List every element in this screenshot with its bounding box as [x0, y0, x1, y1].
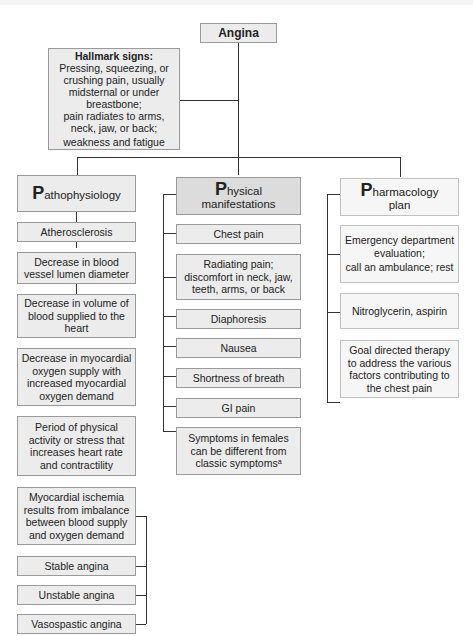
pharm-tick	[327, 312, 340, 313]
hallmark-line-3: weakness and fatigue	[63, 136, 165, 148]
hallmark-signs-box: Hallmark signs: Pressing, squeezing, or …	[48, 48, 180, 150]
angina-root-node: Angina	[200, 23, 277, 43]
phys-tick	[163, 316, 176, 317]
hallmark-line-2: pain radiates to arms, neck, jaw, or bac…	[52, 110, 176, 134]
pharm-tick	[327, 402, 340, 403]
patho-item-vasospastic-angina: Vasospastic angina	[17, 614, 136, 634]
patho-item-lumen: Decrease in blood vessel lumen diameter	[17, 252, 136, 284]
branch-patho	[77, 157, 78, 175]
pathophysiology-header: Pathophysiology	[17, 175, 136, 212]
branch-pharm	[400, 157, 401, 177]
patho-item-ischemia: Myocardial ischemia results from imbalan…	[17, 487, 136, 545]
phys-item-radiating-pain: Radiating pain; discomfort in neck, jaw,…	[176, 254, 301, 300]
phys-item-shortness-of-breath: Shortness of breath	[176, 368, 301, 388]
patho-item-physical-activity: Period of physical activity or stress th…	[17, 416, 136, 476]
phys-tick	[163, 346, 176, 347]
bracket-tick	[136, 566, 146, 567]
hallmark-connector	[180, 100, 238, 101]
bracket-tick	[136, 595, 146, 596]
phys-tick	[163, 376, 176, 377]
phys-item-gi-pain: GI pain	[176, 398, 301, 418]
pharm-tick	[327, 254, 340, 255]
patho-item-atherosclerosis: Atherosclerosis	[17, 222, 136, 242]
phys-item-diaphoresis: Diaphoresis	[176, 309, 301, 329]
phys-tick	[163, 431, 176, 432]
phys-item-nausea: Nausea	[176, 338, 301, 358]
physical-spine	[163, 194, 164, 431]
bracket-tick	[136, 516, 146, 517]
phys-tick	[163, 194, 176, 195]
phys-item-chest-pain: Chest pain	[176, 224, 301, 244]
hallmark-line-1: Hallmark signs: Pressing, squeezing, or …	[52, 50, 176, 110]
angina-type-bracket	[146, 516, 147, 624]
phys-item-female-symptoms: Symptoms in females can be different fro…	[176, 427, 301, 475]
pharm-item-nitroglycerin: Nitroglycerin, aspirin	[340, 293, 459, 329]
hallmark-bold-label: Hallmark signs:	[75, 50, 153, 62]
patho-item-oxygen-supply: Decrease in myocardial oxygen supply wit…	[17, 348, 136, 406]
root-connector	[238, 43, 239, 135]
pharm-tick	[327, 194, 340, 195]
patho-item-blood-volume: Decrease in volume of blood supplied to …	[17, 294, 136, 338]
branch-phys	[238, 135, 239, 175]
physical-manifestations-header: Physical manifestations	[176, 177, 301, 215]
patho-item-unstable-angina: Unstable angina	[17, 585, 136, 605]
pharm-item-emergency: Emergency department evaluation; call an…	[340, 225, 459, 283]
pharmacology-spine	[327, 194, 328, 402]
phys-tick	[163, 233, 176, 234]
phys-tick	[163, 277, 176, 278]
patho-item-stable-angina: Stable angina	[17, 556, 136, 576]
pharm-item-goal-directed-therapy: Goal directed therapy to address the var…	[340, 340, 459, 398]
top-edge-artifact	[0, 0, 473, 5]
phys-tick	[163, 406, 176, 407]
bracket-tick	[136, 624, 146, 625]
pharmacology-header: Pharmacology plan	[340, 178, 459, 216]
root-label: Angina	[218, 27, 259, 40]
